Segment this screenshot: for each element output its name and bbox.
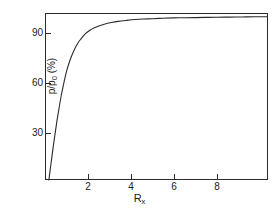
y-axis-title: p/p0 (%) <box>45 31 59 121</box>
y-tick-label-30: 30 <box>3 128 43 138</box>
x-axis-title: Rx <box>0 193 279 204</box>
y-axis-title-unit: (%) <box>46 58 57 76</box>
data-series-line <box>49 17 267 180</box>
x-axis-title-subscript: x <box>142 197 146 206</box>
x-tick-label-6: 6 <box>164 182 184 192</box>
chart-canvas <box>45 13 268 180</box>
chart-figure: 90 60 30 2 4 6 8 p/p0 (%) Rx <box>0 0 279 216</box>
x-axis-title-base: R <box>134 192 142 204</box>
x-tick-label-8: 8 <box>207 182 227 192</box>
y-axis-title-subscript: 0 <box>50 76 59 80</box>
y-tick-label-60: 60 <box>3 78 43 88</box>
y-tick-label-90: 90 <box>3 28 43 38</box>
y-axis-title-numerator: p/p <box>46 80 57 94</box>
x-tick-label-4: 4 <box>121 182 141 192</box>
x-tick-label-2: 2 <box>78 182 98 192</box>
